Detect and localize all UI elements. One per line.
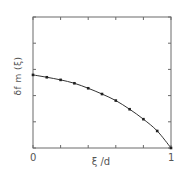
data-point-marker xyxy=(32,74,35,77)
data-point-marker xyxy=(156,130,159,133)
y-axis-label: δf m (ξ) xyxy=(13,56,25,96)
axis-ticks xyxy=(33,17,171,148)
data-line xyxy=(33,75,171,148)
data-point-marker xyxy=(142,118,145,121)
data-markers xyxy=(32,74,173,150)
x-tick-label-0: 0 xyxy=(30,152,36,163)
data-point-marker xyxy=(115,99,118,102)
data-point-marker xyxy=(73,82,76,85)
data-point-marker xyxy=(170,147,173,150)
data-point-marker xyxy=(101,93,104,96)
x-axis-label: ξ /d xyxy=(84,156,118,167)
data-point-marker xyxy=(46,76,49,79)
x-tick-label-1: 1 xyxy=(168,152,174,163)
data-point-marker xyxy=(59,79,62,82)
data-point-marker xyxy=(87,87,90,90)
data-point-marker xyxy=(128,108,131,111)
plot-frame xyxy=(33,17,171,148)
